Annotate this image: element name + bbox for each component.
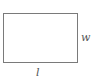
length-label: l [36,67,40,78]
rectangle-shape [3,13,78,63]
width-label: w [81,32,90,43]
